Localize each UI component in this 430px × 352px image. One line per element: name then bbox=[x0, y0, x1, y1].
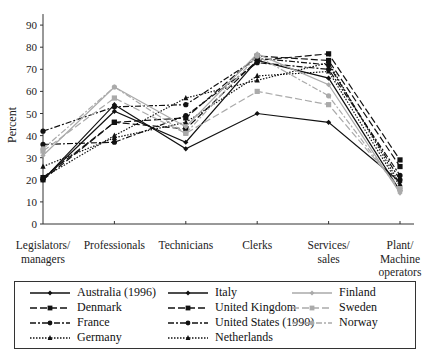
legend-label: Sweden bbox=[339, 300, 377, 315]
y-tick-label: 40 bbox=[26, 130, 38, 142]
legend-item: United Kingdom bbox=[167, 301, 296, 314]
legend-item: Finland bbox=[291, 286, 376, 299]
legend-label: France bbox=[77, 315, 110, 330]
y-tick-label: 60 bbox=[26, 85, 38, 97]
legend-item: France bbox=[29, 316, 110, 329]
legend-swatch-icon bbox=[291, 318, 333, 328]
x-tick-label: Professionals bbox=[84, 239, 146, 251]
legend-swatch-icon bbox=[167, 318, 209, 328]
x-tick-label: Legislators/managers bbox=[16, 239, 71, 266]
legend-swatch-icon bbox=[29, 318, 71, 328]
legend-label: Italy bbox=[215, 285, 237, 300]
x-tick-label: Services/sales bbox=[308, 239, 351, 265]
legend-label: Denmark bbox=[77, 300, 122, 315]
legend-swatch-icon bbox=[167, 288, 209, 298]
legend-label: Finland bbox=[339, 285, 376, 300]
legend-swatch-icon bbox=[291, 303, 333, 313]
legend-item: Italy bbox=[167, 286, 237, 299]
legend-item: Denmark bbox=[29, 301, 122, 314]
x-tick-label: Technicians bbox=[158, 239, 213, 251]
series-denmark bbox=[40, 51, 402, 182]
legend-swatch-icon bbox=[167, 303, 209, 313]
legend-swatch-icon bbox=[291, 288, 333, 298]
y-tick-label: 30 bbox=[26, 152, 38, 164]
legend-label: Australia (1996) bbox=[77, 285, 156, 300]
chart-series-lines bbox=[40, 51, 402, 195]
y-axis-label: Percent bbox=[5, 106, 19, 143]
legend-swatch-icon bbox=[167, 333, 209, 343]
legend-label: Norway bbox=[339, 315, 378, 330]
y-tick-label: 50 bbox=[26, 108, 38, 120]
legend-swatch-icon bbox=[29, 303, 71, 313]
x-tick-label: Plant/Machineoperators bbox=[379, 239, 422, 279]
legend-item: Netherlands bbox=[167, 331, 273, 344]
legend-item: Australia (1996) bbox=[29, 286, 156, 299]
legend-label: United Kingdom bbox=[215, 300, 296, 315]
y-tick-label: 80 bbox=[26, 41, 38, 53]
legend-label: Germany bbox=[77, 330, 122, 345]
legend-item: Sweden bbox=[291, 301, 377, 314]
y-tick-label: 90 bbox=[26, 19, 38, 31]
series-norway bbox=[40, 53, 402, 193]
series-united-kingdom bbox=[40, 53, 402, 180]
y-tick-label: 10 bbox=[26, 196, 38, 208]
chart-legend: Australia (1996)DenmarkFranceGermanyItal… bbox=[14, 281, 416, 349]
series-finland bbox=[40, 51, 402, 195]
y-tick-label: 70 bbox=[26, 63, 38, 75]
y-tick-label: 0 bbox=[32, 218, 38, 230]
series-united-states-1990 bbox=[40, 56, 402, 183]
legend-item: Norway bbox=[291, 316, 378, 329]
legend-item: Germany bbox=[29, 331, 122, 344]
legend-swatch-icon bbox=[29, 288, 71, 298]
y-tick-label: 20 bbox=[26, 174, 38, 186]
series-france bbox=[40, 60, 402, 178]
legend-label: Netherlands bbox=[215, 330, 273, 345]
legend-swatch-icon bbox=[29, 333, 71, 343]
x-tick-label: Clerks bbox=[242, 239, 273, 251]
x-axis-labels: Legislators/managersProfessionalsTechnic… bbox=[16, 239, 422, 279]
